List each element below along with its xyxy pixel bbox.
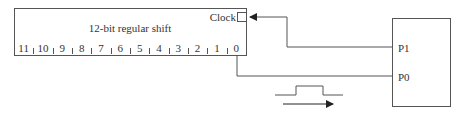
bit-label: 10 xyxy=(33,42,52,55)
bit-label: 1 xyxy=(207,42,226,55)
p1-to-clock-wire xyxy=(250,17,392,47)
bit-labels: 11 10 9 8 7 6 5 4 3 2 1 0 xyxy=(14,42,246,55)
bit-label: 8 xyxy=(72,42,91,55)
controller-box xyxy=(393,19,451,107)
bit-label: 6 xyxy=(111,42,130,55)
bit0-to-p0-wire xyxy=(237,55,392,76)
bit-label: 0 xyxy=(227,42,246,55)
register-title: 12-bit regular shift xyxy=(14,22,246,34)
bit-label: 3 xyxy=(169,42,188,55)
bit-label: 7 xyxy=(91,42,110,55)
port-p1-label: P1 xyxy=(398,42,410,54)
bit-label: 2 xyxy=(188,42,207,55)
clock-label: Clock xyxy=(210,11,236,23)
bit-label: 11 xyxy=(14,42,33,55)
bit-label: 5 xyxy=(130,42,149,55)
pulse-waveform xyxy=(275,86,343,95)
bit-label: 9 xyxy=(53,42,72,55)
port-p0-label: P0 xyxy=(398,71,410,83)
clock-input-box xyxy=(238,13,247,22)
bit-label: 4 xyxy=(149,42,168,55)
